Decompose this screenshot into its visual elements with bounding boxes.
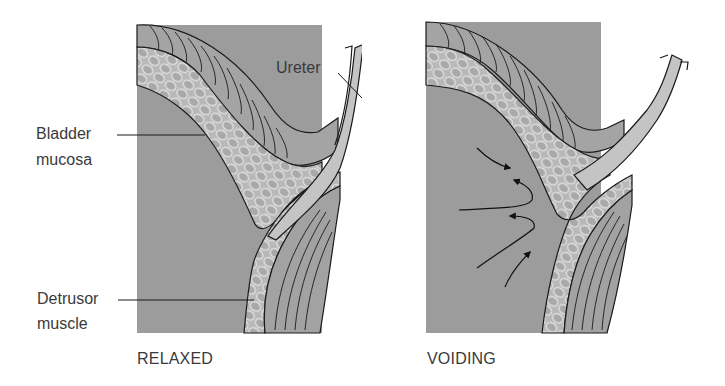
relaxed-panel: Ureter Bladder mucosa Detrusor muscle RE… xyxy=(0,0,362,386)
relaxed-caption: RELAXED xyxy=(137,350,213,368)
bladder-mucosa-label-line1: Bladder xyxy=(36,124,91,144)
voiding-bladder-illustration xyxy=(362,0,725,386)
voiding-caption: VOIDING xyxy=(427,350,496,368)
voiding-panel: VOIDING xyxy=(362,0,724,386)
detrusor-label-line2: muscle xyxy=(37,314,88,334)
ureter-label: Ureter xyxy=(276,58,320,78)
bladder-mucosa-label-line2: mucosa xyxy=(36,150,92,170)
detrusor-label-line1: Detrusor xyxy=(37,289,98,309)
